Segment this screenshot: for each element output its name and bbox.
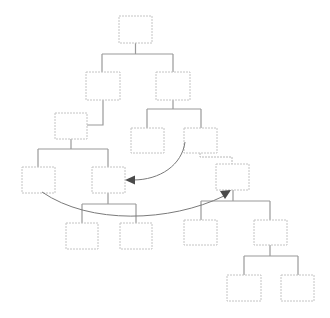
node-n14[interactable] xyxy=(227,275,261,301)
arrowhead-left-icon xyxy=(125,176,135,185)
edge-n1-children xyxy=(102,43,173,72)
tree-nodes xyxy=(22,16,314,301)
edge-n3-children xyxy=(147,100,201,128)
node-n13[interactable] xyxy=(254,220,287,245)
node-n2[interactable] xyxy=(86,72,120,100)
tree-diagram xyxy=(0,0,330,318)
node-n6[interactable] xyxy=(184,128,217,153)
node-n15[interactable] xyxy=(281,275,314,301)
edge-n6-n9 xyxy=(200,153,232,164)
node-n10[interactable] xyxy=(66,223,98,249)
node-n11[interactable] xyxy=(120,223,152,249)
node-n1[interactable] xyxy=(119,16,152,43)
node-n3[interactable] xyxy=(156,72,190,100)
edge-n4-children xyxy=(38,139,108,167)
edge-n8-children xyxy=(82,193,136,223)
node-n8[interactable] xyxy=(92,167,125,193)
node-n5[interactable] xyxy=(131,128,164,153)
edge-n13-children xyxy=(244,245,298,275)
node-n4[interactable] xyxy=(55,113,87,139)
edge-n9-children xyxy=(201,190,270,220)
node-n7[interactable] xyxy=(22,167,55,193)
node-n12[interactable] xyxy=(184,220,217,245)
node-n9[interactable] xyxy=(216,164,249,190)
edge-n2-n4 xyxy=(87,100,103,125)
